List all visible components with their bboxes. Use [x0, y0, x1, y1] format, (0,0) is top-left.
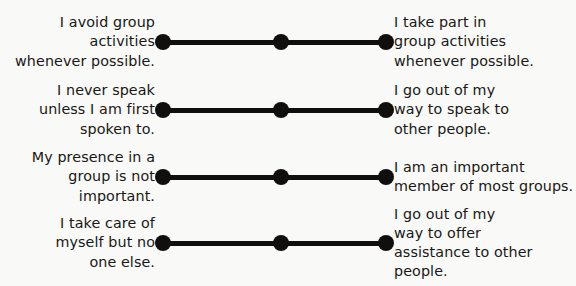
left-statement: I never speak unless I am first spoken t…: [0, 81, 155, 139]
scale-point-middle[interactable]: [273, 34, 289, 50]
scale-point-right[interactable]: [378, 235, 394, 251]
scale-point-right[interactable]: [378, 169, 394, 185]
left-statement: My presence in a group is not important.: [0, 148, 155, 206]
left-statement: I take care of myself but no one else.: [0, 214, 155, 272]
scale-point-middle[interactable]: [273, 169, 289, 185]
scale-point-middle[interactable]: [273, 235, 289, 251]
scale-point-left[interactable]: [155, 235, 171, 251]
semantic-differential-diagram: I avoid group activities whenever possib…: [0, 0, 576, 286]
left-statement: I avoid group activities whenever possib…: [0, 13, 155, 71]
right-statement: I go out of my way to speak to other peo…: [394, 81, 574, 139]
right-statement: I go out of my way to offer assistance t…: [394, 205, 574, 282]
scale-point-right[interactable]: [378, 102, 394, 118]
scale-point-left[interactable]: [155, 34, 171, 50]
right-statement: I am an important member of most groups.: [394, 158, 574, 196]
scale-point-left[interactable]: [155, 102, 171, 118]
scale-point-middle[interactable]: [273, 102, 289, 118]
scale-point-right[interactable]: [378, 34, 394, 50]
right-statement: I take part in group activities whenever…: [394, 13, 574, 71]
scale-point-left[interactable]: [155, 169, 171, 185]
